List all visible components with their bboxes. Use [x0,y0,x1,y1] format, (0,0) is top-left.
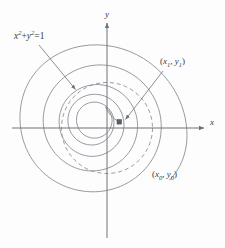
equation-leader-line [39,45,76,90]
point1-paren-close: ) [182,56,185,66]
spiral-inner-tail [77,107,120,138]
point0-paren-close: ) [174,169,177,179]
point-x0y0-label: (x0, y0) [152,170,177,181]
spiral-figure: x2+y2=1 (x1, y1) (x0, y0) y x [0,0,225,248]
y-axis-label: y [105,10,109,19]
point-x1y1-marker [117,120,122,125]
point-x1y1-label: (x1, y1) [160,57,185,68]
x-axis-label: x [210,118,214,127]
point1-leader-line [126,71,164,120]
equation-rhs: 1 [40,31,45,41]
equation-label: x2+y2=1 [14,30,44,42]
